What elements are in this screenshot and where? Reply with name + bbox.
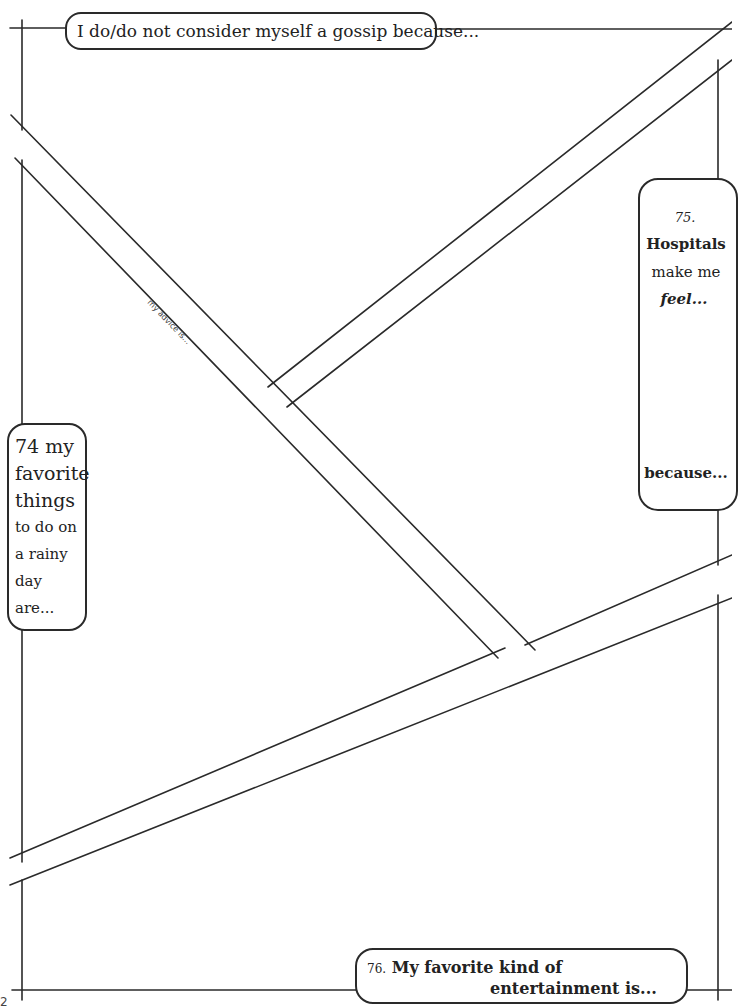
prompt-74-line: a rainy bbox=[15, 541, 79, 568]
prompt-75-box: 75. Hospitals make me feel... because... bbox=[638, 178, 738, 511]
page-number: 2 bbox=[0, 995, 8, 1007]
prompt-76-number: 76. bbox=[367, 962, 386, 976]
prompt-74-line: 74 my bbox=[15, 433, 79, 460]
prompt-74-line: things bbox=[15, 487, 79, 514]
prompt-75-number: 75. bbox=[640, 210, 730, 225]
prompt-76-line-2: entertainment is... bbox=[490, 979, 657, 998]
prompt-76-line-1: 76. My favorite kind of bbox=[367, 958, 562, 977]
prompt-73-text: I do/do not consider myself a gossip bec… bbox=[77, 21, 479, 41]
prompt-74-box: 74 my favorite things to do on a rainy d… bbox=[7, 423, 87, 631]
prompt-74-line: favorite bbox=[15, 460, 79, 487]
prompt-73-box: I do/do not consider myself a gossip bec… bbox=[65, 12, 437, 50]
prompt-75-line: feel... bbox=[640, 290, 728, 308]
prompt-74-line: to do on bbox=[15, 514, 79, 541]
prompt-75-line: make me bbox=[640, 263, 732, 281]
prompt-75-line: Hospitals bbox=[640, 235, 732, 253]
prompt-76-box: 76. My favorite kind of entertainment is… bbox=[355, 948, 688, 1004]
prompt-76-text: My favorite kind of bbox=[392, 958, 563, 977]
prompt-74-line: day bbox=[15, 568, 79, 595]
prompt-74-line: are... bbox=[15, 595, 79, 622]
prompt-75-line: because... bbox=[640, 464, 732, 482]
